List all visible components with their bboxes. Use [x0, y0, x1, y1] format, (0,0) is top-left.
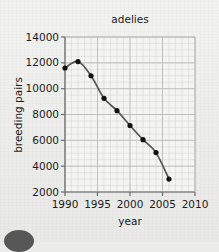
y-tick-labels: 2000400060008000100001200014000	[26, 31, 59, 198]
x-tick-labels: 19901995200020052010	[52, 198, 209, 210]
corner-mark	[4, 230, 34, 252]
y-tick-label: 14000	[26, 31, 59, 43]
x-tick-label: 1990	[52, 198, 79, 210]
y-tick-label: 4000	[32, 160, 59, 172]
x-axis-title: year	[118, 215, 142, 227]
y-tick-label: 2000	[32, 186, 59, 198]
data-point-2006	[166, 176, 171, 181]
data-point-2002	[140, 137, 145, 142]
data-point-2004	[153, 150, 158, 155]
data-point-1996	[101, 96, 106, 101]
y-tick-label: 10000	[26, 82, 59, 94]
data-point-1992	[75, 59, 80, 64]
y-tick-label: 6000	[32, 134, 59, 146]
y-tick-label: 12000	[26, 56, 59, 68]
x-tick-label: 2005	[149, 198, 176, 210]
chart-title: adelies	[111, 13, 148, 25]
x-tick-label: 2010	[182, 198, 209, 210]
data-point-1998	[114, 108, 119, 113]
data-point-2000	[127, 123, 132, 128]
y-tick-label: 8000	[32, 108, 59, 120]
x-tick-label: 1995	[84, 198, 111, 210]
x-tick-label: 2000	[117, 198, 144, 210]
data-point-1994	[88, 73, 93, 78]
data-point-1990	[62, 65, 67, 70]
y-axis-title: breeding pairs	[12, 77, 24, 153]
